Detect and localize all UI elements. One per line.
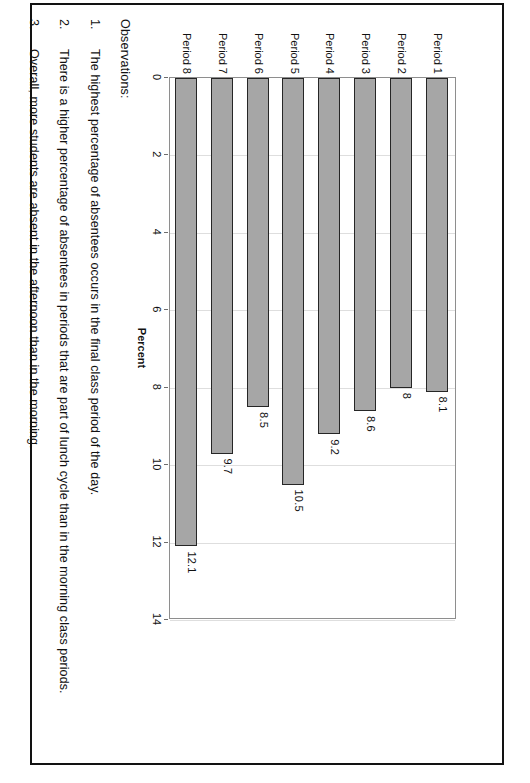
bar-period-6: [247, 78, 269, 407]
bar-value-label: 8.5: [258, 412, 270, 428]
axis-tick-label: 10: [151, 458, 163, 470]
axis-tick-label: 4: [151, 229, 163, 235]
observation-text-3: Overall, more students are absent in the…: [27, 49, 41, 449]
category-label-3: Period 3: [360, 20, 372, 74]
bar-value-label: 8.6: [365, 416, 377, 432]
category-label-6: Period 6: [253, 20, 265, 74]
bar-period-2: [390, 78, 412, 388]
category-label-5: Period 5: [289, 20, 301, 74]
axis-tick-mark: [164, 387, 168, 388]
axis-tick-label: 12: [151, 535, 163, 547]
axis-tick-mark: [164, 154, 168, 155]
category-label-1: Period 1: [432, 20, 444, 74]
table-row: 10.5: [276, 78, 312, 620]
category-label-7: Period 7: [217, 20, 229, 74]
bar-value-label: 9.7: [222, 459, 234, 475]
observation-item-3: 3. Overall, more students are absent in …: [25, 19, 41, 749]
bar-value-label: 8: [401, 393, 413, 399]
observation-number-3: 3.: [25, 19, 41, 41]
axis-tick-mark: [164, 309, 168, 310]
bar-chart: 8.1Period 18Period 28.6Period 39.2Period…: [156, 19, 456, 619]
table-row: 8.1: [419, 78, 455, 620]
bar-period-1: [426, 78, 448, 392]
bar-period-4: [318, 78, 340, 434]
bar-period-3: [354, 78, 376, 411]
category-label-8: Period 8: [181, 20, 193, 74]
axis-tick-label: 14: [151, 613, 163, 625]
gridline: [170, 620, 455, 621]
axis-tick-mark: [164, 232, 168, 233]
table-row: 9.2: [312, 78, 348, 620]
axis-tick-label: 6: [151, 306, 163, 312]
axis-tick-label: 2: [151, 151, 163, 157]
axis-title-percent: Percent: [136, 77, 148, 619]
observation-item-1: 1. The highest percentage of absentees o…: [86, 19, 102, 749]
table-row: 12.1: [168, 78, 204, 620]
observation-item-2: 2. There is a higher percentage of absen…: [56, 19, 72, 749]
axis-tick-mark: [164, 542, 168, 543]
axis-tick-mark: [164, 464, 168, 465]
observations-heading: Observations:: [118, 19, 132, 749]
document-body: 8.1Period 18Period 28.6Period 39.2Period…: [30, 3, 504, 765]
rotated-page-content: 8.1Period 18Period 28.6Period 39.2Period…: [30, 3, 504, 765]
bar-period-8: [175, 78, 197, 546]
axis-tick-mark: [164, 619, 168, 620]
category-label-4: Period 4: [324, 20, 336, 74]
axis-tick-mark: [164, 77, 168, 78]
category-label-2: Period 2: [396, 20, 408, 74]
bar-value-label: 8.1: [437, 397, 449, 413]
observation-text-1: The highest percentage of absentees occu…: [88, 49, 102, 495]
bar-period-7: [211, 78, 233, 454]
observation-number-2: 2.: [56, 19, 72, 41]
bar-period-5: [283, 78, 305, 485]
table-row: 9.7: [204, 78, 240, 620]
axis-tick-label: 8: [151, 384, 163, 390]
bar-value-label: 10.5: [294, 490, 306, 512]
table-row: 8: [383, 78, 419, 620]
bar-value-label: 9.2: [329, 439, 341, 455]
table-row: 8.5: [240, 78, 276, 620]
table-row: 8.6: [347, 78, 383, 620]
observation-text-2: There is a higher percentage of absentee…: [57, 49, 71, 694]
observations-section: Observations: 1. The highest percentage …: [10, 19, 132, 749]
chart-plot-area: 8.1Period 18Period 28.6Period 39.2Period…: [169, 77, 456, 619]
axis-tick-label: 0: [151, 74, 163, 80]
bar-value-label: 12.1: [186, 551, 198, 573]
observation-number-1: 1.: [86, 19, 102, 41]
